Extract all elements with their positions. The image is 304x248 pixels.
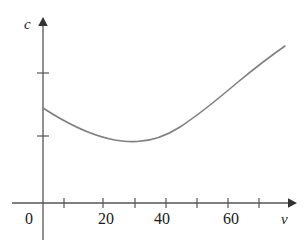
chart-figure: c v 0 20 40 60 [0, 0, 304, 248]
x-tick-label-40: 40 [145, 211, 179, 227]
x-tick-label-60: 60 [214, 211, 248, 227]
y-axis-label: c [24, 17, 31, 32]
x-tick-label-20: 20 [89, 211, 123, 227]
y-axis-arrow-icon [38, 17, 48, 26]
cost-curve-line [43, 46, 285, 142]
origin-label: 0 [22, 211, 36, 227]
x-axis-arrow-icon [288, 198, 297, 208]
x-axis-label: v [281, 212, 288, 227]
